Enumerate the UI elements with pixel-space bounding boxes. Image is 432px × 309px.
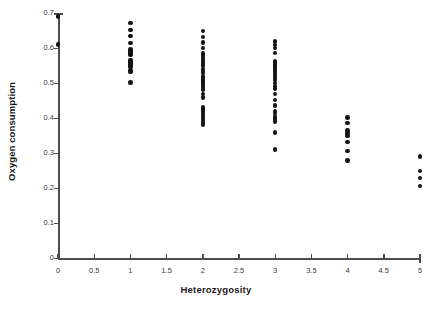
x-tick-label: 4.5	[379, 266, 389, 276]
data-point	[201, 40, 206, 45]
y-axis-line	[58, 13, 60, 258]
x-tick-mark	[94, 254, 95, 259]
y-tick-label: 0.7	[44, 7, 54, 18]
y-tick-mark	[54, 223, 59, 224]
x-axis-title: Heterozygosity	[0, 284, 432, 295]
data-point	[345, 140, 350, 145]
data-point	[345, 158, 350, 163]
data-point	[56, 14, 61, 19]
data-point	[128, 41, 133, 46]
data-point	[273, 98, 278, 103]
x-tick-label: 1.5	[161, 266, 171, 276]
x-tick-label: 2.5	[234, 266, 244, 276]
y-tick-label: 0.5	[44, 77, 54, 88]
data-point	[128, 34, 133, 39]
y-tick-label: 0.2	[44, 182, 54, 193]
data-point	[418, 176, 423, 181]
y-tick-mark	[54, 188, 59, 189]
data-point	[418, 169, 423, 174]
y-tick-label: 0.6	[44, 42, 54, 53]
data-point	[345, 121, 350, 126]
y-tick-mark	[54, 118, 59, 119]
data-point	[128, 28, 133, 33]
plot-area: 00.10.20.30.40.50.60.7 00.511.522.533.54…	[58, 13, 420, 258]
x-tick-mark	[419, 254, 420, 263]
y-tick-mark	[54, 48, 59, 49]
x-tick-mark	[275, 254, 276, 259]
data-point	[128, 21, 133, 26]
x-tick-label: 3	[273, 266, 277, 276]
data-point	[273, 119, 278, 124]
x-tick-mark	[347, 254, 348, 259]
data-point	[128, 70, 133, 75]
data-point	[128, 80, 133, 85]
y-tick-label: 0.4	[44, 112, 54, 123]
data-point	[273, 92, 278, 97]
data-point	[201, 46, 206, 51]
y-axis-title-text: Oxygen consumption	[6, 82, 17, 181]
scatter-plot-figure: Oxygen consumption 00.10.20.30.40.50.60.…	[0, 0, 432, 309]
x-axis-title-text: Heterozygosity	[181, 284, 252, 295]
x-tick-label: 2	[201, 266, 205, 276]
data-point	[273, 51, 278, 56]
y-axis-title: Oxygen consumption	[0, 0, 22, 262]
x-tick-mark	[202, 254, 203, 259]
data-point	[201, 35, 206, 40]
data-point	[56, 42, 61, 47]
x-tick-label: 3.5	[306, 266, 316, 276]
x-tick-label: 5	[418, 266, 422, 276]
x-tick-label: 1	[128, 266, 132, 276]
x-tick-label: 4	[346, 266, 350, 276]
data-point	[345, 115, 350, 120]
y-tick-label: 0.3	[44, 147, 54, 158]
y-tick-mark	[54, 83, 59, 84]
data-point	[345, 149, 350, 154]
data-point	[345, 134, 350, 139]
data-point	[418, 154, 423, 159]
data-point	[273, 103, 278, 108]
data-point	[273, 147, 278, 152]
data-point	[273, 130, 278, 135]
data-point	[273, 86, 278, 91]
data-point	[201, 29, 206, 34]
x-tick-mark	[383, 254, 384, 259]
data-point	[273, 46, 278, 51]
y-tick-label: 0.1	[44, 217, 54, 228]
x-tick-mark	[166, 254, 167, 259]
x-tick-mark	[57, 254, 58, 259]
y-tick-label: 0	[50, 252, 54, 263]
data-point	[201, 87, 206, 92]
y-tick-mark	[54, 153, 59, 154]
x-tick-mark	[130, 254, 131, 259]
data-point	[128, 53, 133, 58]
data-point	[201, 122, 206, 127]
x-tick-mark	[311, 254, 312, 259]
x-tick-label: 0	[56, 266, 60, 276]
data-point	[418, 184, 423, 189]
data-point	[201, 95, 206, 100]
x-tick-mark	[238, 254, 239, 259]
x-tick-label: 0.5	[89, 266, 99, 276]
